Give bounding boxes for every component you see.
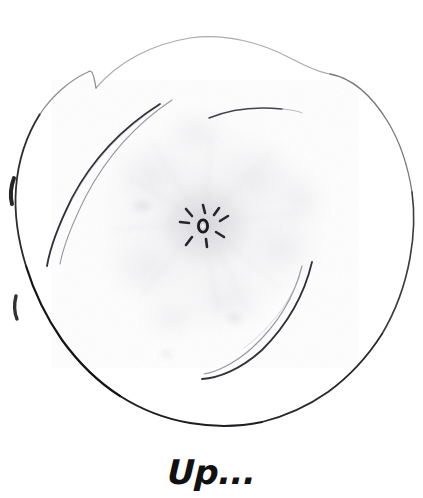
stamen-center-dot (202, 224, 205, 228)
outline-bottom (120, 396, 262, 426)
stamen-dash-5 (206, 239, 207, 247)
illustration-page: Up... (0, 0, 423, 498)
flower-sketch-artboard (0, 0, 423, 498)
outline-right (382, 192, 414, 334)
outline-upper-right (330, 74, 412, 192)
stamen-dash-7 (180, 222, 189, 223)
outline-blot-left-lower (15, 296, 17, 319)
outline-upper-left (40, 71, 96, 114)
outline-top-light (96, 37, 330, 88)
caption-text: Up... (0, 452, 423, 492)
outline-left (15, 114, 40, 266)
flower-sketch-svg (0, 0, 423, 498)
outline-blot-left-upper (11, 178, 14, 204)
top-short-arc-tail (282, 109, 302, 113)
outline-bottom-right (262, 334, 382, 422)
